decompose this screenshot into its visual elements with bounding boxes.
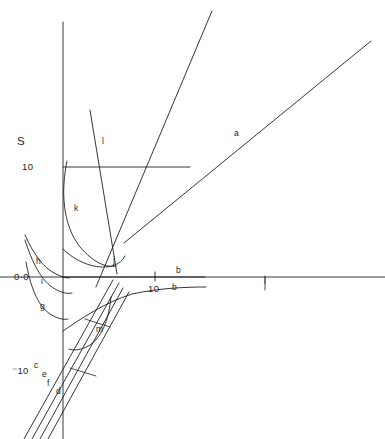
- curve-label-h: h: [36, 257, 41, 266]
- y-tick-label-zero: 0·0: [14, 272, 29, 282]
- curve-label-c: c: [34, 361, 38, 370]
- curve-label-f: f: [47, 379, 49, 388]
- plot-canvas: [0, 0, 385, 439]
- curve-label-b-lower: b: [172, 283, 177, 292]
- curve-e: [32, 283, 119, 439]
- curve-g: [26, 262, 68, 319]
- x-axis-name: l: [264, 277, 266, 286]
- curve-a: [124, 41, 371, 243]
- y-tick-label-minus-10: ⁻10: [12, 366, 29, 376]
- curve-label-j: j: [113, 256, 115, 265]
- curve-label-k: k: [74, 204, 78, 213]
- figure-panel: S 10 0·0 ⁻10 10 a b b c e f d g h i j k …: [0, 0, 385, 439]
- curve-label-g: g: [40, 302, 45, 311]
- curve-label-l: l: [102, 137, 104, 146]
- curve-label-m: m: [96, 325, 103, 334]
- curve-f: [40, 288, 123, 439]
- x-tick-label-10: 10: [148, 284, 159, 294]
- curve-k: [64, 161, 116, 266]
- curve-i-ray: [90, 110, 117, 274]
- curve-j: [63, 249, 125, 267]
- curve-label-b-upper: b: [176, 266, 181, 275]
- curve-h: [25, 235, 69, 278]
- y-tick-label-10: 10: [22, 162, 33, 172]
- curve-label-i: i: [41, 277, 43, 286]
- curve-b-lower: [63, 287, 206, 331]
- y-axis-name: S: [17, 136, 25, 148]
- curve-l: [96, 11, 212, 287]
- curve-label-d: d: [56, 387, 61, 396]
- curve-label-a: a: [234, 129, 239, 138]
